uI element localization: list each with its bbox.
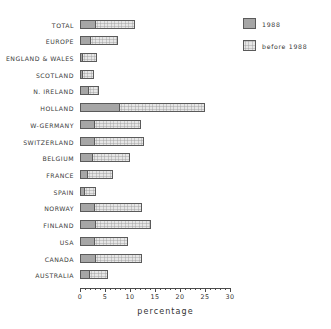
x-tick <box>225 288 226 290</box>
x-tick <box>155 288 156 292</box>
x-tick <box>220 288 221 290</box>
x-tick <box>230 288 231 292</box>
bar-segment-1988 <box>80 153 93 162</box>
bar-row: SCOTLAND <box>0 70 331 81</box>
bar-segment-before-1988 <box>88 170 113 179</box>
category-label: SWITZERLAND <box>0 138 74 147</box>
x-tick <box>200 288 201 290</box>
bar-segment-before-1988 <box>120 103 205 112</box>
category-label: NORWAY <box>0 204 74 213</box>
stacked-bar <box>80 120 141 129</box>
bar-row: NORWAY <box>0 203 331 214</box>
bar-segment-1988 <box>80 170 88 179</box>
category-label: CANADA <box>0 255 74 264</box>
x-axis-title: percentage <box>0 307 331 316</box>
stacked-bar <box>80 270 108 279</box>
bar-segment-before-1988 <box>85 187 97 196</box>
x-tick <box>100 288 101 290</box>
x-tick <box>115 288 116 290</box>
category-label: W-GERMANY <box>0 121 74 130</box>
bar-segment-before-1988 <box>83 53 97 62</box>
x-tick <box>110 288 111 290</box>
bar-row: AUSTRALIA <box>0 270 331 281</box>
x-tick-label: 10 <box>126 293 135 301</box>
x-tick-label: 25 <box>201 293 210 301</box>
stacked-bar <box>80 53 97 62</box>
stacked-bar <box>80 170 113 179</box>
category-label: HOLLAND <box>0 104 74 113</box>
bar-segment-1988 <box>80 237 95 246</box>
bar-segment-before-1988 <box>83 70 95 79</box>
category-label: USA <box>0 238 74 247</box>
bar-segment-before-1988 <box>96 220 152 229</box>
stacked-bar <box>80 103 205 112</box>
bar-segment-1988 <box>80 120 95 129</box>
x-tick <box>160 288 161 290</box>
stacked-bar <box>80 254 142 263</box>
bar-segment-1988 <box>80 86 89 95</box>
bar-row: USA <box>0 237 331 248</box>
x-tick <box>215 288 216 290</box>
category-label: AUSTRALIA <box>0 271 74 280</box>
category-label: EUROPE <box>0 37 74 46</box>
category-label: SPAIN <box>0 188 74 197</box>
x-tick <box>145 288 146 290</box>
bar-segment-1988 <box>80 36 91 45</box>
bar-segment-1988 <box>80 270 90 279</box>
bar-segment-before-1988 <box>90 270 108 279</box>
category-label: ENGLAND & WALES <box>0 54 74 63</box>
x-tick-label: 5 <box>103 293 107 301</box>
bar-row: HOLLAND <box>0 103 331 114</box>
bar-segment-1988 <box>80 137 95 146</box>
x-tick <box>205 288 206 292</box>
x-tick <box>185 288 186 290</box>
bar-row: SWITZERLAND <box>0 137 331 148</box>
x-tick <box>195 288 196 290</box>
x-tick-label: 20 <box>176 293 185 301</box>
stacked-bar <box>80 203 142 212</box>
stacked-bar <box>80 153 130 162</box>
x-tick <box>95 288 96 290</box>
x-tick <box>210 288 211 290</box>
bar-segment-before-1988 <box>95 120 142 129</box>
category-label: TOTAL <box>0 21 74 30</box>
bar-row: FINLAND <box>0 220 331 231</box>
bar-segment-before-1988 <box>89 86 99 95</box>
legend: 1988 before 1988 <box>243 18 331 62</box>
x-tick <box>150 288 151 290</box>
category-label: FINLAND <box>0 221 74 230</box>
category-label: N. IRELAND <box>0 87 74 96</box>
bar-segment-before-1988 <box>95 137 144 146</box>
chart-container: TOTALEUROPEENGLAND & WALESSCOTLANDN. IRE… <box>0 0 331 329</box>
bar-segment-1988 <box>80 254 96 263</box>
bar-row: SPAIN <box>0 187 331 198</box>
legend-swatch-1988 <box>243 18 256 29</box>
stacked-bar <box>80 137 144 146</box>
stacked-bar <box>80 70 94 79</box>
x-tick <box>90 288 91 290</box>
x-tick <box>175 288 176 290</box>
stacked-bar <box>80 237 128 246</box>
bar-segment-before-1988 <box>91 36 118 45</box>
x-tick <box>165 288 166 290</box>
bar-row: W-GERMANY <box>0 120 331 131</box>
x-tick <box>190 288 191 290</box>
x-tick <box>140 288 141 290</box>
stacked-bar <box>80 36 118 45</box>
legend-swatch-before-1988 <box>243 40 256 51</box>
x-tick-label: 15 <box>151 293 160 301</box>
x-tick <box>170 288 171 290</box>
x-tick-label: 0 <box>78 293 82 301</box>
x-tick <box>180 288 181 292</box>
bar-segment-1988 <box>80 203 95 212</box>
stacked-bar <box>80 86 99 95</box>
stacked-bar <box>80 220 151 229</box>
bar-segment-before-1988 <box>93 153 131 162</box>
bar-segment-before-1988 <box>95 237 128 246</box>
bar-row: FRANCE <box>0 170 331 181</box>
x-tick <box>135 288 136 290</box>
x-tick-label: 30 <box>226 293 235 301</box>
bar-segment-1988 <box>80 103 120 112</box>
stacked-bar <box>80 20 135 29</box>
legend-item-1988: 1988 <box>243 18 331 40</box>
